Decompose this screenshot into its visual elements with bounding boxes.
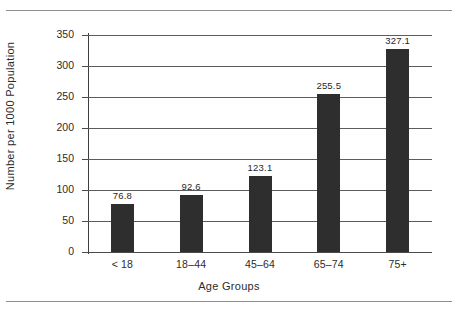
- y-tick-mark: [82, 35, 88, 36]
- bar[interactable]: [386, 49, 409, 252]
- y-tick-mark: [82, 221, 88, 222]
- x-tick-label: 75+: [358, 258, 438, 270]
- bar-chart-figure: 05010015020025030035076.892.6123.1255.53…: [0, 0, 458, 314]
- y-tick-label: 200: [42, 121, 74, 133]
- gridline: [88, 159, 432, 160]
- x-axis-title: Age Groups: [0, 280, 458, 292]
- y-tick-label: 0: [42, 245, 74, 257]
- y-tick-label: 350: [42, 28, 74, 40]
- y-tick-label: 300: [42, 59, 74, 71]
- y-tick-mark: [82, 252, 88, 253]
- bar-value-label: 76.8: [92, 190, 152, 201]
- y-tick-label: 150: [42, 152, 74, 164]
- y-tick-label: 250: [42, 90, 74, 102]
- x-axis-baseline: [85, 252, 432, 253]
- plot-area: 05010015020025030035076.892.6123.1255.53…: [88, 35, 432, 252]
- y-tick-mark: [82, 159, 88, 160]
- bar-value-label: 327.1: [368, 35, 428, 46]
- y-tick-mark: [82, 128, 88, 129]
- gridline: [88, 97, 432, 98]
- y-tick-label: 100: [42, 183, 74, 195]
- y-axis-title: Number per 1000 Population: [4, 1, 16, 231]
- gridline: [88, 128, 432, 129]
- bar-value-label: 92.6: [161, 181, 221, 192]
- y-tick-label: 50: [42, 214, 74, 226]
- bar-value-label: 255.5: [299, 80, 359, 91]
- bar[interactable]: [180, 195, 203, 252]
- top-divider-rule: [6, 10, 452, 11]
- y-tick-mark: [82, 66, 88, 67]
- y-tick-mark: [82, 190, 88, 191]
- bar-value-label: 123.1: [230, 162, 290, 173]
- bar[interactable]: [317, 94, 340, 252]
- bar[interactable]: [111, 204, 134, 252]
- bottom-divider-rule: [6, 301, 452, 302]
- bar[interactable]: [249, 176, 272, 252]
- gridline: [88, 66, 432, 67]
- y-tick-mark: [82, 97, 88, 98]
